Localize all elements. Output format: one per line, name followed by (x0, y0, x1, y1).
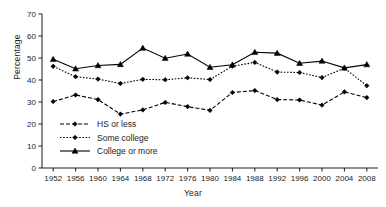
data-point-marker (365, 83, 370, 88)
y-tick-label: 0 (32, 164, 37, 173)
data-point-marker (275, 97, 280, 102)
x-tick-label: 1976 (179, 174, 197, 183)
data-point-marker (140, 45, 146, 50)
chart-figure: Percentage Year 010203040506070 19521956… (0, 0, 386, 207)
x-tick-label: 1956 (67, 174, 85, 183)
x-tick-label: 1968 (134, 174, 152, 183)
data-point-marker (364, 62, 370, 67)
x-tick-label: 1992 (268, 174, 286, 183)
data-point-marker (297, 98, 302, 103)
data-point-marker (208, 77, 213, 82)
series-hs-or-less (51, 88, 369, 116)
y-axis: 010203040506070 (27, 10, 42, 173)
legend-label: Some college (97, 133, 149, 143)
x-tick-label: 1972 (156, 174, 174, 183)
legend-item-college-or-more[interactable]: College or more (60, 146, 158, 156)
x-tick-label: 1960 (89, 174, 107, 183)
data-point-marker (51, 99, 56, 104)
data-point-marker (297, 70, 302, 75)
line-chart-plot: 010203040506070 195219561960196419681972… (0, 0, 386, 207)
data-point-marker (253, 88, 258, 93)
data-point-marker (51, 64, 56, 69)
data-point-marker (320, 75, 325, 80)
data-point-marker (73, 122, 78, 127)
data-point-marker (230, 90, 235, 95)
data-point-marker (342, 90, 347, 95)
legend-label: College or more (97, 146, 158, 156)
data-point-marker (229, 62, 235, 67)
y-tick-label: 10 (27, 142, 36, 151)
y-tick-label: 30 (27, 98, 36, 107)
x-axis: 1952195619601964196819721976198019841988… (42, 168, 378, 183)
data-point-marker (141, 77, 146, 82)
data-point-marker (365, 95, 370, 100)
x-tick-label: 2008 (358, 174, 376, 183)
x-tick-label: 1984 (224, 174, 242, 183)
y-tick-label: 60 (27, 32, 36, 41)
x-tick-label: 2000 (313, 174, 331, 183)
data-point-marker (163, 100, 168, 105)
x-tick-label: 1988 (246, 174, 264, 183)
data-point-marker (73, 74, 78, 79)
data-point-marker (141, 108, 146, 113)
chart-legend: HS or lessSome collegeCollege or more (60, 119, 158, 156)
legend-item-some-college[interactable]: Some college (60, 133, 149, 143)
x-tick-label: 1964 (112, 174, 130, 183)
data-point-marker (163, 77, 168, 82)
series-container (50, 45, 370, 116)
data-point-marker (253, 60, 258, 65)
data-point-marker (96, 77, 101, 82)
data-point-marker (185, 51, 191, 56)
data-point-marker (118, 112, 123, 117)
data-point-marker (275, 70, 280, 75)
series-college-or-more (50, 45, 370, 71)
data-point-marker (185, 76, 190, 81)
data-point-marker (73, 93, 78, 98)
legend-label: HS or less (97, 119, 136, 129)
data-point-marker (50, 56, 56, 61)
data-point-marker (118, 81, 123, 86)
y-tick-label: 70 (27, 10, 36, 19)
data-point-marker (73, 135, 78, 140)
y-tick-label: 40 (27, 76, 36, 85)
data-point-marker (185, 104, 190, 109)
x-tick-label: 1996 (291, 174, 309, 183)
x-tick-label: 1952 (44, 174, 62, 183)
legend-item-hs-or-less[interactable]: HS or less (60, 119, 136, 129)
data-point-marker (208, 108, 213, 113)
x-tick-label: 2004 (336, 174, 354, 183)
y-tick-label: 20 (27, 120, 36, 129)
x-tick-label: 1980 (201, 174, 219, 183)
data-point-marker (320, 103, 325, 108)
data-point-marker (319, 58, 325, 63)
y-tick-label: 50 (27, 54, 36, 63)
